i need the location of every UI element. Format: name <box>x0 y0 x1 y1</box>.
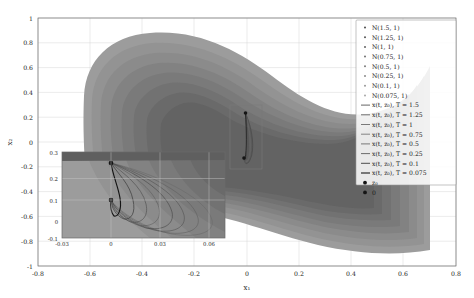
x-tick-7: 0.6 <box>398 270 408 277</box>
inset-contour-bands <box>62 152 225 238</box>
legend-label: N(0.1, 1) <box>372 82 400 89</box>
inset-y-tick-2: 0.1 <box>50 198 58 204</box>
legend-dot-icon <box>364 94 366 96</box>
figure-root: -0.8 -0.6 -0.4 -0.2 0 0.2 0.4 0.6 0.8 1 … <box>0 0 474 298</box>
legend-label: N(1, 1) <box>372 43 394 50</box>
plot-svg: -0.8 -0.6 -0.4 -0.2 0 0.2 0.4 0.6 0.8 1 … <box>0 0 474 298</box>
legend-label: x(t, z₀), T = 1.25 <box>372 111 423 118</box>
y-tick-1: 0.8 <box>23 39 33 46</box>
legend-dot-icon <box>364 65 366 67</box>
legend-label: N(0.75, 1) <box>372 53 403 60</box>
legend-dot-icon <box>364 56 366 58</box>
y-tick-7: -0.4 <box>21 188 33 195</box>
inset-plot: -0.03 0 0.03 0.06 0.3 0.2 0.1 0 -0.1 <box>48 150 225 248</box>
marker-z0 <box>244 111 248 115</box>
y-tick-9: -0.8 <box>21 238 33 245</box>
legend-label: 0 <box>372 189 376 196</box>
legend-label: x(t, z₀), T = 0.075 <box>372 169 427 176</box>
legend-dot-icon <box>364 36 366 38</box>
legend-dot-icon <box>364 46 366 48</box>
x-tick-8: 0.8 <box>451 270 461 277</box>
inset-x-tick-3: 0.06 <box>203 241 215 247</box>
legend-label: x(t, z₀), T = 1.5 <box>372 101 419 108</box>
y-tick-4: 0.2 <box>23 114 33 121</box>
y-tick-3: 0.4 <box>23 89 33 96</box>
marker-origin <box>242 156 246 160</box>
y-tick-8: -0.6 <box>21 213 33 220</box>
y-tick-10: -1 <box>27 263 33 270</box>
filled-circle-icon <box>363 191 367 195</box>
x-tick-1: -0.6 <box>84 270 96 277</box>
y-tick-0: 1 <box>29 15 33 22</box>
legend-dot-icon <box>364 27 366 29</box>
legend-label: x(t, z₀), T = 1 <box>372 121 413 128</box>
x-axis-label: x₁ <box>244 284 251 292</box>
inset-x-tick-2: 0.03 <box>154 241 166 247</box>
legend-label: x(t, z₀), T = 0.5 <box>372 140 419 147</box>
inset-y-tick-4: -0.1 <box>48 236 58 242</box>
legend-label: N(1.5, 1) <box>372 24 400 31</box>
y-tick-labels: 1 0.8 0.6 0.4 0.2 0 -0.2 -0.4 -0.6 -0.8 … <box>21 15 33 270</box>
legend-label: N(0.5, 1) <box>372 63 400 70</box>
legend[interactable]: N(1.5, 1) N(1.25, 1) N(1, 1) N(0.75, 1) … <box>356 20 456 196</box>
x-tick-5: 0.2 <box>294 270 304 277</box>
x-tick-2: -0.4 <box>136 270 148 277</box>
y-tick-2: 0.6 <box>23 64 33 71</box>
legend-label: x(t, z₀), T = 0.25 <box>372 150 423 157</box>
x-tick-4: 0 <box>245 270 249 277</box>
legend-label: N(0.075, 1) <box>372 92 407 99</box>
legend-dot-icon <box>364 75 366 77</box>
y-tick-5: 0 <box>29 139 33 146</box>
y-axis-label: x₂ <box>6 138 14 145</box>
legend-label: x(t, z₀), T = 0.1 <box>372 160 419 167</box>
x-tick-0: -0.8 <box>32 270 44 277</box>
legend-dot-icon <box>364 85 366 87</box>
legend-label: N(0.25, 1) <box>372 72 403 79</box>
x-tick-3: -0.2 <box>188 270 200 277</box>
inset-y-tick-1: 0.2 <box>50 176 58 182</box>
y-tick-6: -0.2 <box>21 163 33 170</box>
x-tick-6: 0.4 <box>346 270 356 277</box>
inset-y-tick-0: 0.3 <box>50 150 58 156</box>
filled-circle-icon <box>363 181 367 185</box>
inset-x-tick-0: -0.03 <box>55 241 69 247</box>
legend-label: z₀ <box>372 179 378 186</box>
legend-label: N(1.25, 1) <box>372 34 403 41</box>
x-tick-labels: -0.8 -0.6 -0.4 -0.2 0 0.2 0.4 0.6 0.8 <box>32 270 461 277</box>
legend-label: x(t, z₀), T = 0.75 <box>372 131 423 138</box>
